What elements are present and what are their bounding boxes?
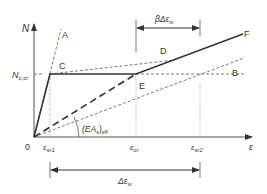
tick-sr1: εsr1 bbox=[43, 143, 55, 153]
ncr-label: Nc,cr bbox=[12, 70, 28, 81]
tick-sr2: εsr2 bbox=[191, 143, 204, 153]
point-F-label: F bbox=[244, 29, 250, 39]
delta-dimension-label: Δεsr bbox=[117, 176, 133, 187]
tick-cr: εcr bbox=[130, 143, 140, 153]
point-C-label: C bbox=[59, 61, 66, 71]
point-B-label: B bbox=[232, 68, 238, 78]
point-A-label: A bbox=[62, 30, 68, 40]
x-axis-label: ε bbox=[249, 142, 254, 152]
point-D-label: D bbox=[160, 46, 167, 56]
stiffness-label: (EAs)eff bbox=[82, 124, 108, 135]
y-axis-label: N bbox=[22, 23, 30, 34]
beta-dimension-label: βΔεsr bbox=[154, 14, 175, 25]
tension-stiffening-diagram: N ε 0 Nc,cr A C D E F B εsr1 εcr εsr2 (E… bbox=[0, 0, 267, 194]
point-E-label: E bbox=[139, 81, 145, 91]
line-OB bbox=[34, 58, 244, 137]
origin-label: 0 bbox=[25, 142, 30, 152]
